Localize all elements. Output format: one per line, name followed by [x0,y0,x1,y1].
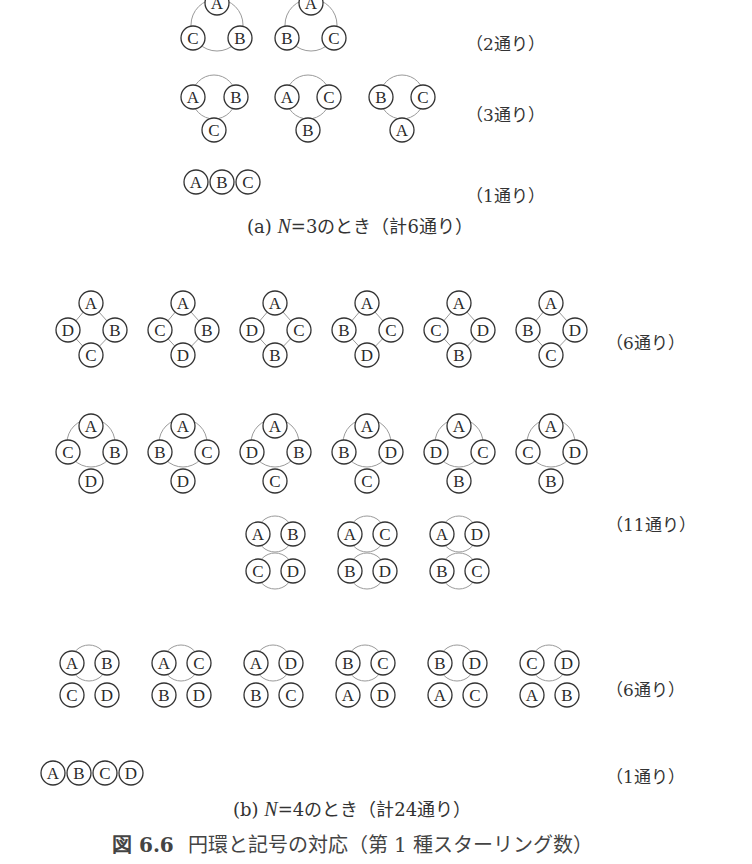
svg-text:C: C [417,88,428,107]
svg-text:B: B [109,321,120,340]
node-b: B [332,440,356,464]
svg-text:C: C [62,443,73,462]
node-a: A [79,291,103,315]
node-c: C [424,318,448,342]
svg-text:B: B [436,562,447,581]
svg-text:C: C [85,346,96,365]
node-a: A [338,522,362,546]
node-c: C [93,761,117,785]
svg-text:C: C [99,764,110,783]
node-c: C [60,683,84,707]
svg-text:D: D [246,443,258,462]
node-c: C [371,651,395,675]
svg-text:D: D [85,472,97,491]
svg-text:C: C [361,472,372,491]
svg-text:D: D [125,764,137,783]
svg-text:A: A [177,417,190,436]
node-b: B [338,559,362,583]
node-b: B [447,469,471,493]
node-b: B [555,683,579,707]
node-b: B [281,522,305,546]
svg-text:D: D [361,346,373,365]
node-a: A [428,683,452,707]
node-b: B [195,318,219,342]
svg-text:B: B [293,443,304,462]
node-b: B [275,26,299,50]
node-d: D [471,318,495,342]
node-c: C [520,651,544,675]
svg-text:B: B [109,443,120,462]
node-d: D [240,318,264,342]
svg-text:B: B [73,764,84,783]
node-c: C [322,26,346,50]
svg-text:D: D [471,525,483,544]
ring-diagram: ADBC [430,516,489,589]
svg-text:C: C [328,29,339,48]
svg-text:C: C [522,443,533,462]
svg-text:C: C [252,562,263,581]
node-c: C [516,440,540,464]
svg-text:C: C [193,654,204,673]
figure-number: 図 6.6 [112,833,174,857]
node-b: B [103,440,127,464]
node-d: D [171,343,195,367]
svg-text:A: A [281,88,294,107]
ring-diagram: ABCD [332,291,403,367]
svg-text:D: D [177,472,189,491]
node-b: B [516,318,540,342]
svg-text:B: B [453,346,464,365]
count-label: （6通り） [606,676,685,701]
node-b: B [430,559,454,583]
svg-text:C: C [545,346,556,365]
ring-diagram: BDAC [428,645,487,707]
node-d: D [563,440,587,464]
ring-diagram: ACBD [148,291,219,367]
caption-b-var: N [264,798,277,820]
node-a: A [539,414,563,438]
node-b: B [67,761,91,785]
svg-text:B: B [561,686,572,705]
ring-diagram: ADCB [240,291,311,367]
svg-text:A: A [250,654,263,673]
count-label: （1通り） [606,763,685,788]
count-label: （6通り） [606,329,685,354]
svg-text:D: D [285,654,297,673]
ring-diagram: ADBC [56,291,127,367]
ring-diagram: BCAD [336,645,395,707]
svg-text:D: D [430,443,442,462]
node-b: B [152,683,176,707]
svg-text:A: A [47,764,60,783]
node-b: B [428,651,452,675]
node-c: C [181,26,205,50]
svg-text:C: C [323,88,334,107]
caption-a-var: N [278,215,291,237]
node-a: A [205,0,229,15]
node-a: A [539,291,563,315]
svg-text:D: D [177,346,189,365]
svg-text:D: D [561,654,573,673]
node-b: B [539,469,563,493]
node-d: D [379,440,403,464]
node-d: D [465,522,489,546]
node-a: A [263,291,287,315]
svg-text:A: A [434,686,447,705]
svg-text:A: A [453,417,466,436]
svg-text:B: B [287,525,298,544]
svg-text:A: A [361,417,374,436]
svg-text:D: D [385,443,397,462]
svg-text:A: A [396,121,409,140]
svg-text:D: D [477,321,489,340]
node-a: A [447,414,471,438]
node-b: B [296,118,320,142]
ring-diagram: ACBD [338,516,397,589]
node-d: D [56,318,80,342]
node-a: A [181,85,205,109]
figure-caption-text: 円環と記号の対応（第 1 種スターリング数） [188,833,593,857]
svg-text:D: D [246,321,258,340]
caption-a-rest: =3のとき（計6通り） [291,216,473,237]
svg-text:B: B [344,562,355,581]
node-c: C [202,118,226,142]
node-a: A [171,291,195,315]
node-d: D [95,683,119,707]
svg-text:C: C [154,321,165,340]
